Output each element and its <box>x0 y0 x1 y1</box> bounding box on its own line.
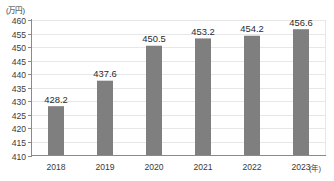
y-tick-labels: 410415420425430435440445450455460 <box>12 16 27 162</box>
bar-value-label: 456.6 <box>289 17 312 28</box>
y-tick-label: 415 <box>12 138 27 148</box>
y-tick-label: 455 <box>12 30 27 40</box>
y-axis-unit-label: (万円) <box>6 6 25 15</box>
x-tick-label: 2018 <box>46 162 65 172</box>
x-axis-unit-label: (年) <box>309 163 321 173</box>
bar <box>146 46 162 156</box>
y-tick-label: 425 <box>12 111 27 121</box>
bar-value-label: 454.2 <box>240 23 263 34</box>
bar <box>195 38 211 155</box>
x-tick-label: 2021 <box>193 162 212 172</box>
bar <box>97 81 113 156</box>
y-tick-label: 420 <box>12 124 27 134</box>
chart-canvas: (万円) 410415420425430435440445450455460 2… <box>0 0 334 181</box>
bar-value-label: 453.2 <box>191 26 214 37</box>
x-tick-label: 2019 <box>95 162 114 172</box>
bar-chart: (万円) 410415420425430435440445450455460 2… <box>0 0 334 181</box>
y-tick-label: 435 <box>12 84 27 94</box>
y-tick-label: 430 <box>12 97 27 107</box>
bar <box>48 106 64 155</box>
bar-value-label: 428.2 <box>44 94 67 105</box>
y-tick-label: 440 <box>12 70 27 80</box>
y-tick-label: 410 <box>12 152 27 162</box>
x-tick-label: 2020 <box>144 162 163 172</box>
x-tick-label: 2023 <box>291 162 310 172</box>
bar <box>244 36 260 156</box>
bar-value-label: 450.5 <box>142 33 165 44</box>
bar <box>293 29 309 155</box>
y-tick-label: 445 <box>12 57 27 67</box>
bar-value-label: 437.6 <box>93 68 116 79</box>
x-tick-label: 2022 <box>242 162 261 172</box>
y-tick-label: 450 <box>12 43 27 53</box>
y-tick-label: 460 <box>12 16 27 26</box>
